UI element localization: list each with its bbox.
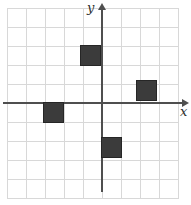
y-axis-line — [101, 9, 103, 192]
y-axis-label: y — [87, 1, 94, 14]
dark-square-right — [136, 80, 157, 101]
dark-square-left — [43, 102, 64, 123]
dark-square-top — [80, 45, 101, 66]
x-axis-line — [3, 102, 184, 104]
coordinate-plane-figure: y x — [0, 0, 191, 205]
y-axis-arrow-icon — [98, 3, 106, 10]
dark-square-bottom — [101, 137, 122, 158]
x-axis-label: x — [180, 105, 187, 118]
